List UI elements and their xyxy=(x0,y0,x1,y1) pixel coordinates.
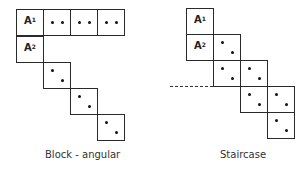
staircase-caption: Staircase xyxy=(220,149,266,160)
matrix-cell xyxy=(97,9,125,36)
dot-icon xyxy=(78,95,81,98)
matrix-cell xyxy=(213,34,241,61)
dot-icon xyxy=(248,93,251,96)
dot-icon xyxy=(275,119,278,122)
matrix-cell xyxy=(70,88,98,115)
dot-icon xyxy=(105,21,108,24)
matrix-cell-a1: A1 xyxy=(186,8,214,35)
cell-label: A1 xyxy=(24,16,36,26)
dot-icon xyxy=(221,41,224,44)
matrix-cell xyxy=(240,60,268,87)
matrix-cell xyxy=(267,112,295,139)
dot-icon xyxy=(231,77,234,80)
matrix-cell-a1: A1 xyxy=(16,9,44,36)
dot-icon xyxy=(61,79,64,82)
cell-label: A2 xyxy=(24,43,36,53)
dot-icon xyxy=(248,67,251,70)
dot-icon xyxy=(88,105,91,108)
matrix-cell xyxy=(70,9,98,36)
dot-icon xyxy=(285,129,288,132)
dot-icon xyxy=(115,131,118,134)
dot-icon xyxy=(51,21,54,24)
dot-icon xyxy=(221,67,224,70)
dot-icon xyxy=(275,93,278,96)
dot-icon xyxy=(78,21,81,24)
matrix-cell xyxy=(43,9,71,36)
cell-label: A1 xyxy=(194,15,206,25)
matrix-cell-a2: A2 xyxy=(16,36,44,63)
matrix-cell xyxy=(267,86,295,113)
dot-icon xyxy=(105,121,108,124)
matrix-cell xyxy=(43,62,71,89)
dot-icon xyxy=(258,103,261,106)
dot-icon xyxy=(88,21,91,24)
dot-icon xyxy=(285,103,288,106)
dot-icon xyxy=(61,21,64,24)
dot-icon xyxy=(115,21,118,24)
dot-icon xyxy=(258,77,261,80)
matrix-cell xyxy=(213,60,241,87)
block-angular-caption: Block - angular xyxy=(45,149,120,160)
dot-icon xyxy=(231,51,234,54)
dashed-line xyxy=(170,86,213,87)
matrix-cell xyxy=(240,86,268,113)
dot-icon xyxy=(51,69,54,72)
matrix-cell-a2: A2 xyxy=(186,34,214,61)
cell-label: A2 xyxy=(194,41,206,51)
matrix-cell xyxy=(97,114,125,141)
